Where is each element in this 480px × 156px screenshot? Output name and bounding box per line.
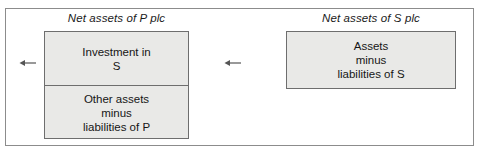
panel-title-s-plc: Net assets of S plc: [286, 12, 456, 24]
box-line: Investment in: [82, 45, 150, 59]
net-assets-box-s-plc: Assets minus liabilities of S: [286, 31, 456, 89]
left-arrow-icon-inner: [224, 57, 242, 69]
box-line: minus: [101, 106, 132, 120]
panel-title-p-plc: Net assets of P plc: [44, 12, 189, 24]
box-section-other-assets-minus-liabilities-of-p: Other assets minus liabilities of P: [45, 86, 188, 140]
left-arrow-icon-outer: [19, 57, 37, 69]
box-section-investment-in-s: Investment in S: [45, 32, 188, 86]
net-assets-box-p-plc: Investment in S Other assets minus liabi…: [44, 31, 189, 139]
box-line: minus: [356, 53, 387, 67]
box-line: S: [113, 59, 121, 73]
net-assets-diagram: Net assets of P plc Net assets of S plc …: [0, 0, 480, 156]
box-section-assets-minus-liabilities-of-s: Assets minus liabilities of S: [287, 32, 455, 88]
box-line: liabilities of S: [337, 67, 404, 81]
box-line: liabilities of P: [83, 120, 150, 134]
box-line: Other assets: [84, 92, 149, 106]
box-line: Assets: [354, 39, 389, 53]
